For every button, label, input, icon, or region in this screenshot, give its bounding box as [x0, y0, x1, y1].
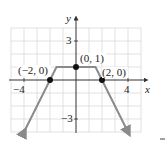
tick-y-3: 3: [66, 34, 72, 46]
tick-x-neg4: −4: [13, 83, 25, 95]
x-axis-label: x: [144, 83, 150, 95]
label-point-neg2-0: (−2, 0): [18, 64, 48, 77]
tick-x-4: 4: [124, 83, 130, 95]
label-point-2-0: (2, 0): [102, 66, 126, 79]
tick-y-neg3: −3: [61, 112, 73, 124]
y-axis-label: y: [65, 12, 71, 24]
label-point-0-1: (0, 1): [80, 52, 104, 65]
point-neg2-0: [47, 77, 53, 83]
function-graph: y x −4 4 3 −3 (−2, 0) (0, 1) (2, 0): [0, 0, 166, 146]
point-0-1: [73, 64, 79, 70]
